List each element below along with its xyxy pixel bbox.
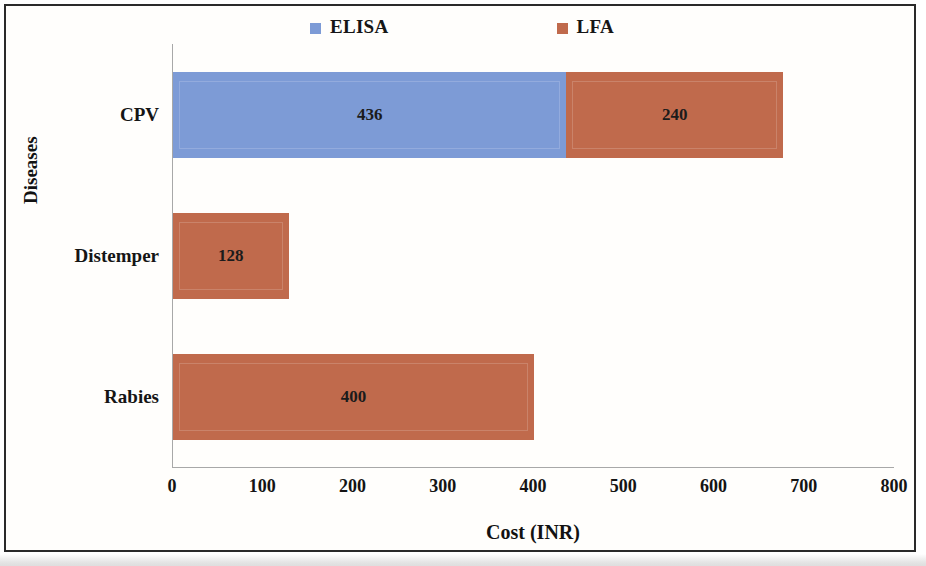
y-axis-title: Diseases xyxy=(20,136,42,204)
bar-row: Rabies 400 xyxy=(173,327,894,468)
x-tick-label: 200 xyxy=(339,476,366,497)
bar-row: Distemper 128 xyxy=(173,185,894,326)
legend-label-lfa: LFA xyxy=(577,16,615,38)
legend-item-lfa: LFA xyxy=(557,16,615,38)
bar-value-label: 128 xyxy=(218,246,244,266)
category-label-cpv: CPV xyxy=(120,104,159,126)
x-axis-ticks: 0100200300400500600700800 xyxy=(172,476,894,502)
chart-frame: ELISA LFA CPV 436 240 xyxy=(4,4,916,552)
legend-label-elisa: ELISA xyxy=(330,16,389,38)
plot-area: CPV 436 240 Distemper 128 xyxy=(172,44,894,468)
bar-segment-elisa[interactable]: 436 xyxy=(173,72,566,158)
chart-page: ELISA LFA CPV 436 240 xyxy=(0,0,926,566)
bar-value-label: 240 xyxy=(662,105,688,125)
x-tick-label: 0 xyxy=(168,476,177,497)
legend-swatch-elisa-icon xyxy=(310,23,321,34)
category-label-distemper: Distemper xyxy=(75,245,159,267)
x-tick-label: 300 xyxy=(429,476,456,497)
bar-track: 128 xyxy=(173,213,289,299)
bar-row: CPV 436 240 xyxy=(173,44,894,185)
x-tick-label: 100 xyxy=(249,476,276,497)
legend-item-elisa: ELISA xyxy=(310,16,389,38)
bar-track: 436 240 xyxy=(173,72,783,158)
x-tick-label: 400 xyxy=(520,476,547,497)
bar-segment-lfa[interactable]: 128 xyxy=(173,213,289,299)
legend-swatch-lfa-icon xyxy=(557,23,568,34)
x-tick-label: 800 xyxy=(881,476,908,497)
category-label-rabies: Rabies xyxy=(104,386,159,408)
x-tick-label: 700 xyxy=(790,476,817,497)
bar-segment-lfa[interactable]: 240 xyxy=(566,72,783,158)
x-tick-label: 500 xyxy=(610,476,637,497)
bar-value-label: 436 xyxy=(357,105,383,125)
bar-segment-lfa[interactable]: 400 xyxy=(173,354,534,440)
scan-artifact xyxy=(0,554,926,566)
chart-legend: ELISA LFA xyxy=(6,16,918,38)
bar-value-label: 400 xyxy=(341,387,367,407)
x-tick-label: 600 xyxy=(700,476,727,497)
x-axis-title: Cost (INR) xyxy=(172,521,894,544)
bar-track: 400 xyxy=(173,354,534,440)
